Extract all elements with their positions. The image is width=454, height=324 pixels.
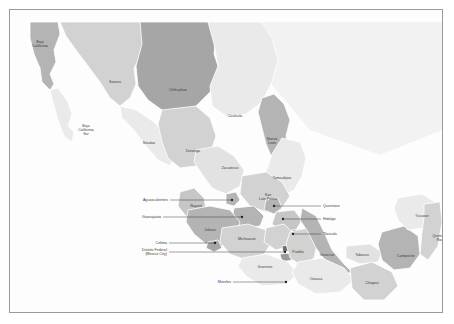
callout-label: Morelos bbox=[218, 280, 231, 284]
leader-dot bbox=[231, 199, 233, 201]
leader-dot bbox=[241, 216, 243, 218]
state-label: Guerrero bbox=[258, 265, 273, 269]
state-label: Durango bbox=[186, 149, 200, 153]
mexico-map[interactable]: BajaCaliforniaBajaCaliforniaSurSonoraChi… bbox=[10, 10, 442, 312]
callout-label: Aguascalientes bbox=[143, 198, 168, 202]
state-label: Jalisco bbox=[204, 228, 215, 232]
state-label: Coahuila bbox=[228, 114, 243, 118]
map-frame: BajaCaliforniaBajaCaliforniaSurSonoraChi… bbox=[9, 9, 443, 313]
callout-label: Hidalgo bbox=[323, 217, 336, 221]
state-label: Zacatecas bbox=[221, 166, 238, 170]
state-label: Campeche bbox=[397, 254, 415, 258]
callout-label: Distrito Federal(Mexico City) bbox=[142, 248, 167, 256]
state-label: NuevoLeon bbox=[267, 137, 278, 145]
state-label: Michoacan bbox=[238, 237, 256, 241]
callout-label: Guanajuato bbox=[142, 215, 161, 219]
leader-dot bbox=[292, 233, 294, 235]
leader-dot bbox=[214, 242, 216, 244]
map-page: BajaCaliforniaBajaCaliforniaSurSonoraChi… bbox=[0, 0, 454, 324]
state-label: Yucatan bbox=[415, 214, 428, 218]
state-label: Nayarit bbox=[190, 204, 202, 208]
leader-dot bbox=[273, 205, 275, 207]
state-label: Tamaulipas bbox=[273, 176, 292, 180]
leader-dot bbox=[282, 218, 284, 220]
state-label: Veracruz bbox=[320, 253, 335, 257]
leader-dot bbox=[284, 251, 286, 253]
callout-label: Tlaxcala bbox=[323, 232, 337, 236]
state-label: Puebla bbox=[292, 250, 304, 254]
state-label: Chihuahua bbox=[169, 88, 187, 92]
state-label: Sonora bbox=[109, 80, 121, 84]
state-label: Sinaloa bbox=[143, 141, 155, 145]
leader-dot bbox=[285, 281, 287, 283]
state-label: Tabasco bbox=[355, 253, 369, 257]
state-label: Chiapas bbox=[365, 281, 379, 285]
state-label: Oaxaca bbox=[310, 277, 323, 281]
callout-label: Colima bbox=[156, 241, 167, 245]
callout-label: Queretaro bbox=[323, 204, 340, 208]
